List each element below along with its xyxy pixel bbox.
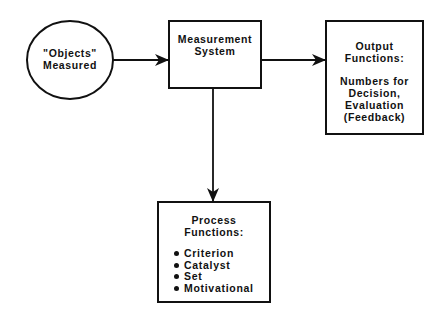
- process-item-motivational: Motivational: [174, 283, 270, 295]
- process-item-label: Motivational: [184, 282, 254, 294]
- objects-measured-label: "Objects" Measured: [27, 47, 113, 71]
- process-item-label: Set: [184, 270, 202, 282]
- output-body-line-1: Numbers for: [326, 75, 423, 87]
- process-title-line-2: Functions:: [158, 226, 270, 238]
- measurement-system-label: Measurement System: [169, 33, 261, 57]
- bullet-icon: [174, 286, 179, 291]
- process-item-label: Criterion: [184, 247, 234, 259]
- bullet-icon: [174, 274, 179, 279]
- output-title-line-1: Output: [326, 40, 423, 52]
- measurement-label-line-1: Measurement: [169, 33, 261, 45]
- output-title-line-2: Functions:: [326, 52, 423, 64]
- bullet-icon: [174, 263, 179, 268]
- objects-label-line-2: Measured: [27, 59, 113, 71]
- output-body-line-4: (Feedback): [326, 111, 423, 123]
- process-functions-list: Criterion Catalyst Set Motivational: [158, 248, 270, 294]
- measurement-label-line-2: System: [169, 45, 261, 57]
- output-body-line-3: Evaluation: [326, 99, 423, 111]
- process-functions-label: Process Functions: Criterion Catalyst Se…: [158, 214, 270, 294]
- output-body-line-2: Decision,: [326, 87, 423, 99]
- bullet-icon: [174, 251, 179, 256]
- objects-label-line-1: "Objects": [27, 47, 113, 59]
- process-title-line-1: Process: [158, 214, 270, 226]
- output-functions-label: Output Functions: Numbers for Decision, …: [326, 40, 423, 123]
- output-spacer: [326, 64, 423, 75]
- process-item-label: Catalyst: [184, 259, 230, 271]
